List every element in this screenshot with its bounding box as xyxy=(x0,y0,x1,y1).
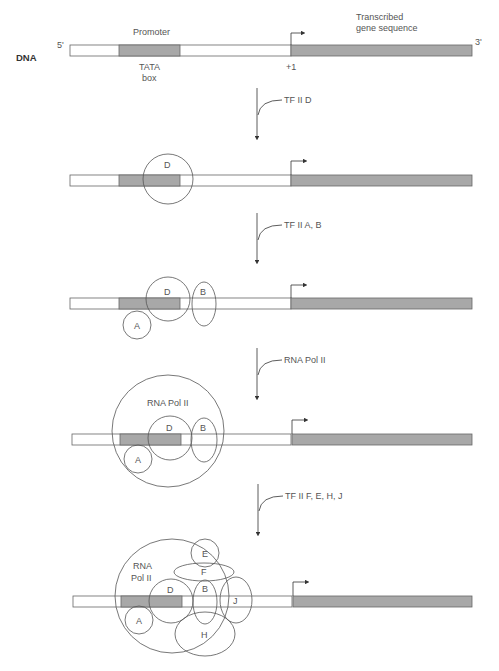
gene-sequence xyxy=(291,175,472,186)
dna-strand xyxy=(70,45,291,56)
gene-sequence xyxy=(291,298,472,309)
five-prime-label: 5' xyxy=(57,40,64,50)
dna-strand xyxy=(72,434,291,445)
gene-sequence xyxy=(291,45,472,56)
protein-label-d: D xyxy=(166,423,173,433)
tss-arrow-icon xyxy=(292,420,306,434)
step-label: RNA Pol II xyxy=(284,355,326,365)
complex-4: RNA Pol II E F D B J A H xyxy=(73,539,472,656)
protein-label-a: A xyxy=(136,616,142,626)
complex-3: RNA Pol II D B A xyxy=(72,375,472,487)
protein-label-b: B xyxy=(200,423,206,433)
step-arrow-4: TF II F, E, H, J xyxy=(258,484,343,534)
plus-one-label: +1 xyxy=(286,62,296,72)
curved-arrow-icon xyxy=(258,360,282,375)
protein-label-a: A xyxy=(134,321,140,331)
tata-box xyxy=(119,298,180,309)
step-label: TF II A, B xyxy=(284,220,322,230)
tata-box xyxy=(119,175,180,186)
gene-sequence xyxy=(292,434,472,445)
complex-2: D B A xyxy=(70,277,472,339)
tata-box xyxy=(121,596,182,607)
protein-label-b: B xyxy=(200,287,206,297)
protein-label-e: E xyxy=(202,549,208,559)
protein-label-b: B xyxy=(202,584,208,594)
tata-label-1: TATA xyxy=(139,62,160,72)
gene-sequence xyxy=(293,596,472,607)
step-label: TF II F, E, H, J xyxy=(285,491,343,501)
protein-label-j: J xyxy=(233,596,238,606)
transcription-diagram: Promoter 5' DNA TATA box +1 Transcribed … xyxy=(0,0,499,671)
promoter-label: Promoter xyxy=(133,27,170,37)
dna-strand xyxy=(70,298,291,309)
protein-label-rna: RNA xyxy=(133,561,152,571)
dna-strand xyxy=(73,596,292,607)
curved-arrow-icon xyxy=(259,496,283,511)
step-arrow-3: RNA Pol II xyxy=(257,348,326,398)
step-label: TF II D xyxy=(284,95,312,105)
curved-arrow-icon xyxy=(258,225,282,240)
step-arrow-2: TF II A, B xyxy=(257,213,322,262)
protein-label-d: D xyxy=(167,585,174,595)
complex-1: D xyxy=(70,154,472,204)
three-prime-label: 3' xyxy=(475,37,482,47)
protein-label-h: H xyxy=(201,630,208,640)
tata-box xyxy=(120,434,181,445)
tata-box xyxy=(119,45,180,56)
tss-arrow-icon xyxy=(291,285,305,298)
tss-arrow-icon xyxy=(291,161,305,175)
protein-label-d: D xyxy=(164,287,171,297)
protein-label-d: D xyxy=(164,160,171,170)
protein-label-a: A xyxy=(135,455,141,465)
dna-strand xyxy=(70,175,291,186)
tata-label-2: box xyxy=(142,73,157,83)
transcribed-label-1: Transcribed xyxy=(356,12,403,22)
transcribed-label-2: gene sequence xyxy=(356,23,418,33)
protein-label-f: F xyxy=(201,567,207,577)
step-arrow-1: TF II D xyxy=(257,88,312,138)
tss-arrow-icon xyxy=(293,582,307,596)
dna-initial: Promoter 5' DNA TATA box +1 Transcribed … xyxy=(16,12,482,83)
protein-label-pol-ii: Pol II xyxy=(131,573,152,583)
protein-label-rna-pol-ii: RNA Pol II xyxy=(147,398,189,408)
tss-arrow-icon xyxy=(291,33,303,45)
curved-arrow-icon xyxy=(258,100,282,115)
dna-label: DNA xyxy=(16,52,37,63)
